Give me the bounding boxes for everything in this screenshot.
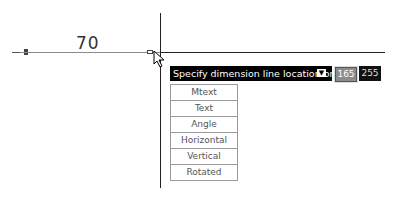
down-arrow-icon[interactable]: ▼: [317, 69, 326, 77]
dynamic-input-prompt: Specify dimension line location or ▼: [170, 66, 332, 81]
dynamic-input-value-2[interactable]: 255: [359, 66, 381, 81]
dynamic-input-value-1[interactable]: 165: [335, 67, 357, 82]
crosshair-horizontal: [160, 52, 385, 53]
prompt-text: Specify dimension line location or: [173, 68, 333, 79]
menu-item-text[interactable]: Text: [171, 101, 237, 117]
menu-item-vertical[interactable]: Vertical: [171, 149, 237, 165]
menu-item-angle[interactable]: Angle: [171, 117, 237, 133]
menu-item-horizontal[interactable]: Horizontal: [171, 133, 237, 149]
mouse-pointer-icon: [153, 50, 167, 68]
dimension-value-label: 70: [76, 33, 100, 53]
menu-item-mtext[interactable]: Mtext: [171, 85, 237, 101]
options-menu: Mtext Text Angle Horizontal Vertical Rot…: [170, 84, 238, 181]
crosshair-vertical: [160, 13, 161, 188]
menu-item-rotated[interactable]: Rotated: [171, 165, 237, 180]
